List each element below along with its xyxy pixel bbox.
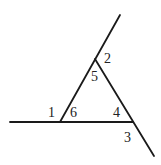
angle-label-4: 4 <box>113 105 120 120</box>
angle-label-1: 1 <box>48 105 55 120</box>
angle-diagram: 1 2 3 4 5 6 <box>0 0 161 165</box>
angle-label-5: 5 <box>91 69 98 84</box>
left-slanted-line <box>60 15 120 122</box>
angle-label-3: 3 <box>124 130 131 145</box>
angle-label-2: 2 <box>104 51 111 66</box>
angle-label-6: 6 <box>70 105 77 120</box>
